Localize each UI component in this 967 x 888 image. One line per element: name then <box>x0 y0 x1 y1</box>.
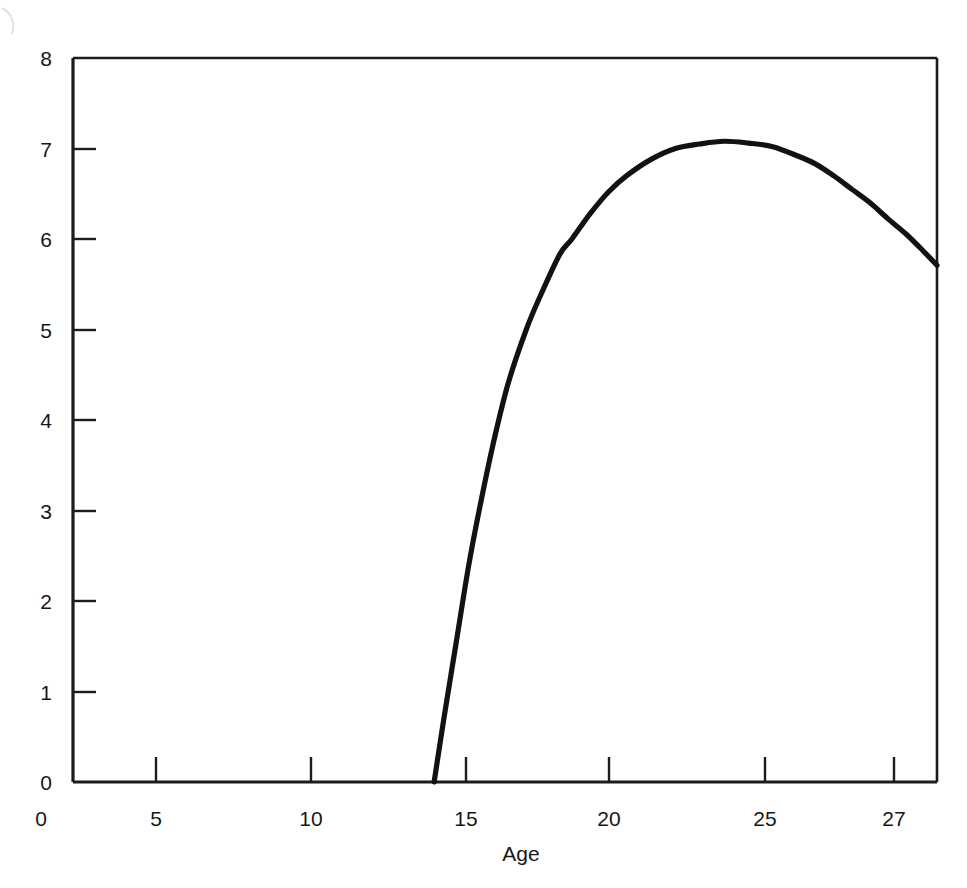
x-axis-title: Age <box>502 842 539 865</box>
chart-figure: 8 7 6 5 4 3 2 1 0 0 5 10 15 20 25 27 Age <box>0 0 967 888</box>
y-tick-label-4: 4 <box>40 409 52 432</box>
line-chart: 8 7 6 5 4 3 2 1 0 0 5 10 15 20 25 27 Age <box>0 0 967 888</box>
x-tick-label-0: 0 <box>35 807 47 830</box>
x-tick-label-27: 27 <box>882 807 905 830</box>
x-tick-label-15: 15 <box>454 807 477 830</box>
plot-frame <box>73 58 937 782</box>
y-tick-label-1: 1 <box>40 681 52 704</box>
y-tick-label-6: 6 <box>40 228 52 251</box>
x-tick-label-25: 25 <box>753 807 776 830</box>
data-curve <box>434 141 937 782</box>
y-tick-label-2: 2 <box>40 590 52 613</box>
y-tick-label-8: 8 <box>40 47 52 70</box>
x-tick-label-20: 20 <box>597 807 620 830</box>
y-tick-label-3: 3 <box>40 500 52 523</box>
x-tick-label-10: 10 <box>299 807 322 830</box>
scan-artifact <box>2 8 13 34</box>
x-axis-ticks <box>156 757 894 782</box>
y-tick-label-7: 7 <box>40 138 52 161</box>
x-tick-label-5: 5 <box>150 807 162 830</box>
y-axis-ticks <box>73 149 96 692</box>
y-tick-label-0: 0 <box>40 771 52 794</box>
x-axis-tick-labels: 0 5 10 15 20 25 27 <box>35 807 906 830</box>
y-tick-label-5: 5 <box>40 319 52 342</box>
y-axis-tick-labels: 8 7 6 5 4 3 2 1 0 <box>40 47 52 794</box>
